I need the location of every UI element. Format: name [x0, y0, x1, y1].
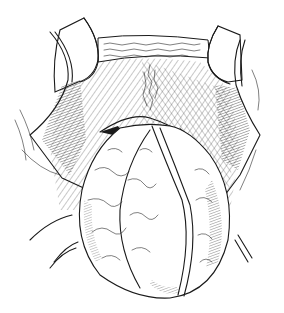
illustration-svg: [0, 0, 284, 313]
lower-right-tissue: [235, 235, 252, 262]
upper-tissue-band: [98, 35, 210, 62]
lower-left-tissue: [30, 215, 78, 268]
surgical-illustration: [0, 0, 284, 313]
